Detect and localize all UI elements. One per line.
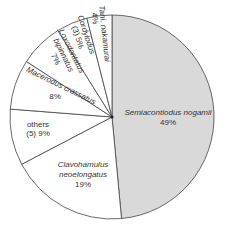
label-others-name: others xyxy=(27,120,49,129)
label-clavohamulus-genus: Clavohamulus xyxy=(58,160,109,169)
label-semiacontiodus-name: Semiacontiodus nogamii xyxy=(124,108,211,117)
label-clavohamulus-pct: 19% xyxy=(75,180,91,189)
slice-label-others: others (5) 9% xyxy=(26,120,50,138)
label-clavohamulus-species: neoelongatus xyxy=(59,170,107,179)
label-semiacontiodus-pct: 49% xyxy=(160,118,176,127)
pie-center-dot xyxy=(110,115,113,118)
label-macerodus-pct: 8% xyxy=(49,92,61,101)
label-others-pct: (5) 9% xyxy=(26,129,50,138)
label-tani-pct: 4% xyxy=(90,12,100,24)
pie-chart: Semiacontiodus nogamii 49% Clavohamulus … xyxy=(0,0,226,235)
